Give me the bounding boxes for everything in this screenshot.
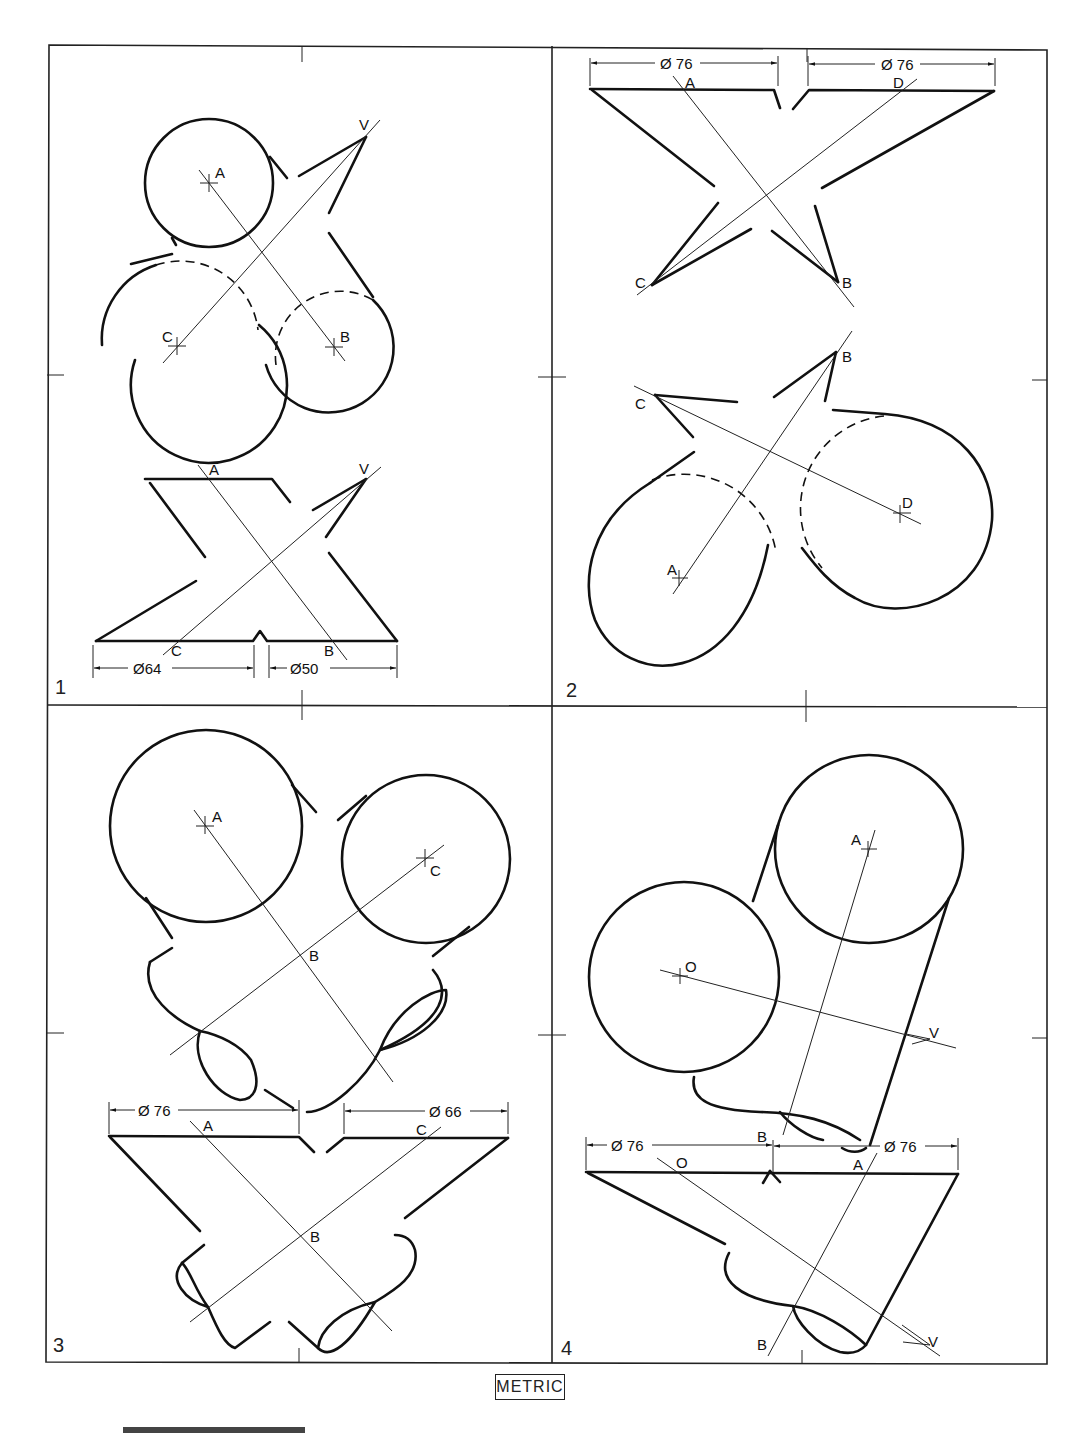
- label-c: C: [430, 862, 441, 879]
- label-v-front: V: [928, 1333, 938, 1350]
- label-d: D: [893, 74, 904, 91]
- panel-3: A C B A C B Ø 76 Ø 66 3: [53, 730, 510, 1356]
- dimension-d50: Ø50: [290, 660, 318, 677]
- label-o-front: O: [676, 1154, 688, 1171]
- label-a: A: [215, 164, 225, 181]
- label-a: A: [685, 74, 695, 91]
- label-a-top: A: [667, 561, 677, 578]
- panel-1: A C B V A V C B Ø64 Ø50 1: [55, 116, 397, 698]
- panel-4: A O V O A B B V Ø 76 Ø 76 4: [561, 755, 963, 1359]
- metric-label: METRIC: [495, 1374, 565, 1400]
- dimension-d76-left: Ø 76: [660, 55, 693, 72]
- label-o: O: [685, 958, 697, 975]
- label-b-top: B: [842, 348, 852, 365]
- dimension-d76-right: Ø 76: [884, 1138, 917, 1155]
- label-a-front: A: [209, 461, 219, 478]
- label-b-front: B: [310, 1228, 320, 1245]
- label-a-front: A: [203, 1117, 213, 1134]
- label-b: B: [340, 328, 350, 345]
- label-c-front: C: [171, 642, 182, 659]
- label-v: V: [359, 116, 369, 133]
- dimension-d76: Ø 76: [138, 1102, 171, 1119]
- label-c-top: C: [635, 395, 646, 412]
- label-v: V: [929, 1024, 939, 1041]
- panel-number: 1: [55, 676, 66, 698]
- dimension-d66: Ø 66: [429, 1103, 462, 1120]
- label-b-front: B: [324, 642, 334, 659]
- label-b-bottom: B: [757, 1336, 767, 1353]
- dimension-d76-left: Ø 76: [611, 1137, 644, 1154]
- label-a: A: [212, 808, 222, 825]
- label-b: B: [309, 947, 319, 964]
- drawing-sheet: A C B V A V C B Ø64 Ø50 1: [0, 0, 1089, 1433]
- label-d-top: D: [902, 494, 913, 511]
- dimension-d76-right: Ø 76: [881, 56, 914, 73]
- dimension-d64: Ø64: [133, 660, 161, 677]
- panel-2: A D C B Ø 76 Ø 76 C B A D 2: [566, 55, 995, 701]
- sheet-frame: [46, 45, 1047, 1364]
- footer-bar: [123, 1427, 305, 1433]
- panel-number: 4: [561, 1337, 572, 1359]
- label-c: C: [635, 274, 646, 291]
- panel-number: 2: [566, 679, 577, 701]
- label-c-front: C: [416, 1121, 427, 1138]
- label-v-front: V: [359, 460, 369, 477]
- label-a-front: A: [853, 1156, 863, 1173]
- panel-number: 3: [53, 1334, 64, 1356]
- label-b: B: [842, 274, 852, 291]
- label-c: C: [162, 328, 173, 345]
- label-b-top: B: [757, 1128, 767, 1145]
- label-a: A: [851, 831, 861, 848]
